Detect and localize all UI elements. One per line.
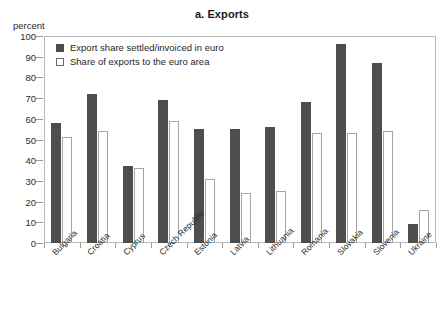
x-axis-tick-mark [329,243,330,248]
y-axis-tick-mark [36,119,43,120]
x-axis-tick-mark [258,243,259,248]
bar [312,133,322,243]
chart-title: a. Exports [0,8,444,20]
bar [62,137,72,243]
bar [87,94,97,243]
y-axis-tick-label: 60 [6,113,36,124]
y-axis-tick-mark [36,77,43,78]
legend-label-dark: Export share settled/invoiced in euro [70,42,224,53]
x-axis-tick-mark [400,243,401,248]
x-axis-tick-mark [115,243,116,248]
y-axis-unit-label: percent [13,20,45,31]
y-axis-tick-label: 20 [6,196,36,207]
bar [230,129,240,243]
chart-page: a. Exports percent 010203040506070809010… [0,0,444,315]
x-axis-tick-mark [365,243,366,248]
legend-swatch-dark-icon [56,44,64,52]
y-axis-tick-mark [36,243,43,244]
y-axis-tick-mark [36,181,43,182]
bar [194,129,204,243]
y-axis-tick-mark [36,36,43,37]
x-axis-tick-mark [44,243,45,248]
bar [123,166,133,243]
x-axis-tick-mark [436,243,437,248]
y-axis-tick-label: 90 [6,51,36,62]
bar [169,121,179,243]
bar [158,100,168,243]
bar [383,131,393,243]
y-axis-tick-mark [36,57,43,58]
bar [98,131,108,243]
x-axis-tick-mark [151,243,152,248]
bar [265,127,275,243]
legend-label-light: Share of exports to the euro area [70,56,209,67]
legend-item-light: Share of exports to the euro area [56,55,224,68]
y-axis-tick-label: 0 [6,238,36,249]
y-axis-tick-mark [36,222,43,223]
y-axis-tick-label: 80 [6,72,36,83]
y-axis-tick-mark [36,202,43,203]
y-axis-tick-label: 100 [6,31,36,42]
y-axis-tick-mark [36,160,43,161]
bar [347,133,357,243]
x-axis-tick-mark [222,243,223,248]
bar [301,102,311,243]
legend-swatch-light-icon [56,58,64,66]
y-axis-tick-label: 50 [6,134,36,145]
x-axis-tick-mark [187,243,188,248]
y-axis-tick-mark [36,140,43,141]
y-axis-tick-label: 10 [6,217,36,228]
y-axis-tick-label: 40 [6,155,36,166]
y-axis-tick-label: 70 [6,93,36,104]
legend-item-dark: Export share settled/invoiced in euro [56,41,224,54]
x-axis-tick-mark [80,243,81,248]
chart-legend: Export share settled/invoiced in euro Sh… [56,41,224,69]
y-axis-tick-mark [36,98,43,99]
x-axis-tick-mark [293,243,294,248]
bar [336,44,346,243]
y-axis-tick-label: 30 [6,175,36,186]
bar [372,63,382,243]
bar [51,123,61,243]
